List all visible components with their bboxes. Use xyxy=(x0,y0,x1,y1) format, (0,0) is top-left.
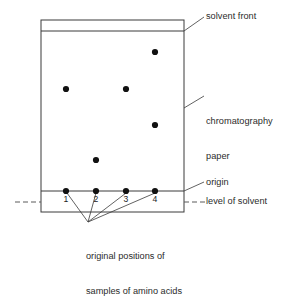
label-chromatography-paper-line1: chromatography xyxy=(206,116,273,128)
leader-chromatography-paper xyxy=(184,96,204,108)
caption-original-positions: original positions of samples of amino a… xyxy=(86,228,182,300)
separated-spot-lane3 xyxy=(123,86,129,92)
leader-origin xyxy=(184,182,204,191)
lane-number-3: 3 xyxy=(120,195,132,204)
caption-line-1: original positions of xyxy=(86,251,182,263)
label-level-of-solvent: level of solvent xyxy=(206,196,267,208)
leader-solvent-front xyxy=(184,17,204,31)
label-chromatography-paper-line2: paper xyxy=(206,151,273,163)
caption-line-2: samples of amino acids xyxy=(86,286,182,298)
label-chromatography-paper: chromatography paper xyxy=(206,93,273,185)
label-solvent-front: solvent front xyxy=(206,11,256,23)
chromatography-paper-rect xyxy=(41,20,184,212)
label-origin: origin xyxy=(206,177,229,189)
lane-number-1: 1 xyxy=(60,195,72,204)
separated-spot-lane1 xyxy=(63,86,69,92)
lane-number-4: 4 xyxy=(149,195,161,204)
lane-number-2: 2 xyxy=(90,195,102,204)
separated-spot-lane4-upper xyxy=(152,49,158,55)
separated-spot-lane4-lower xyxy=(152,122,158,128)
separated-spot-lane2 xyxy=(93,157,99,163)
